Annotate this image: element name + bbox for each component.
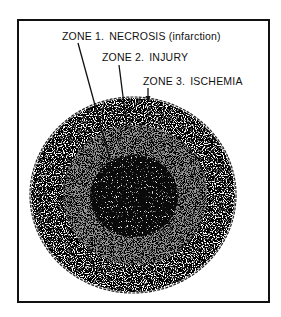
zone-3-name: ISCHEMIA [190,75,242,87]
zone-1-necrosis-region [90,155,178,237]
zone-diagram [0,0,281,317]
zone-1-prefix: ZONE 1. [62,30,104,42]
zone-3-prefix: ZONE 3. [143,75,185,87]
zone-1-label: ZONE 1.NECROSIS (infarction) [62,31,221,42]
zone-3-label: ZONE 3.ISCHEMIA [143,76,243,87]
zone-2-prefix: ZONE 2. [102,51,144,63]
zone-1-name: NECROSIS (infarction) [109,30,221,42]
zone-2-name: INJURY [149,51,188,63]
zone-2-label: ZONE 2.INJURY [102,52,188,63]
